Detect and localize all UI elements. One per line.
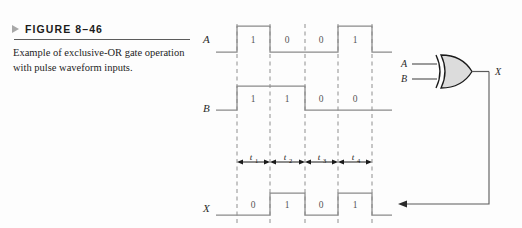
waveform-x: X 0 1 0 1 — [202, 193, 392, 215]
bit-label-b-1: 1 — [285, 94, 290, 104]
feedback-arrowhead — [398, 200, 407, 207]
xor-gate: A B X — [400, 55, 502, 88]
bit-label-a-2: 0 — [319, 35, 324, 45]
bit-label-b-3: 0 — [353, 94, 358, 104]
interval-label-t2: t — [284, 152, 287, 162]
bit-label-x-1: 1 — [285, 200, 290, 210]
waveform-b: B 1 1 0 0 — [203, 86, 392, 114]
feedback-path — [398, 72, 489, 208]
interval-label-t1: t — [250, 152, 253, 162]
bit-label-x-0: 0 — [251, 200, 256, 210]
gate-body-shape — [441, 55, 472, 88]
gate-input-label-b: B — [401, 73, 407, 84]
bit-label-b-0: 1 — [251, 94, 256, 104]
gate-output-label-x: X — [494, 66, 502, 77]
timing-diagram-and-gate: A 1 0 0 1 B 1 1 0 0 t 1 — [0, 0, 522, 228]
bit-label-x-3: 1 — [353, 200, 358, 210]
bit-label-x-2: 0 — [319, 200, 324, 210]
bit-label-a-1: 0 — [285, 35, 290, 45]
interval-sub-t2: 2 — [289, 157, 292, 164]
interval-sub-t3: 3 — [323, 157, 326, 164]
waveform-a: A 1 0 0 1 — [202, 26, 392, 52]
gate-input-label-a: A — [400, 58, 408, 69]
signal-label-x: X — [202, 202, 211, 214]
interval-label-t3: t — [318, 152, 321, 162]
bit-label-a-3: 1 — [353, 35, 358, 45]
gate-xor-arc — [436, 55, 440, 88]
signal-label-b: B — [203, 102, 210, 114]
bit-label-a-0: 1 — [251, 35, 256, 45]
bit-label-b-2: 0 — [319, 94, 324, 104]
signal-label-a: A — [202, 33, 210, 45]
figure-page: FIGURE 8–46 Example of exclusive-OR gate… — [0, 0, 522, 228]
interval-sub-t1: 1 — [255, 157, 258, 164]
interval-sub-t4: 4 — [357, 157, 361, 164]
interval-label-t4: t — [352, 152, 355, 162]
